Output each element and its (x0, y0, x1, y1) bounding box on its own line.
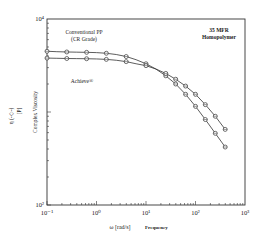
x-axis-tick-labels: 10⁻¹10⁰10¹10²10³ (41, 209, 250, 216)
chart-title-line1: 35 MFR (209, 27, 229, 33)
y-tick-label: 10⁴ (35, 15, 45, 22)
x-tick-label: 10⁰ (92, 209, 102, 216)
viscosity-chart: 10⁻¹10⁰10¹10²10³ 10²10⁴ Conventional PP … (0, 0, 260, 241)
chart-title-line2: Homopolymer (202, 34, 236, 40)
y-axis-label: Complex Viscosity (32, 91, 38, 133)
x-axis-label-suffix: Frequency (145, 225, 168, 230)
series-layer (45, 49, 227, 149)
x-tick-label: 10³ (241, 209, 250, 216)
x-axis-ticks (47, 201, 243, 205)
x-axis-label: ω [rad/s] (109, 224, 130, 231)
series-line (47, 51, 225, 147)
series-label-achieve: Achieve® (71, 78, 94, 84)
plot-frame (47, 19, 245, 205)
y-axis-symbol: η (-◇-) (8, 108, 15, 125)
y-tick-label: 10² (36, 201, 45, 208)
x-tick-label: 10² (191, 209, 200, 216)
series-label-conventional-line1: Conventional PP (65, 29, 102, 35)
series-label-conventional-line2: (CR Grade) (71, 36, 97, 43)
series-achieve (45, 56, 227, 131)
x-tick-label: 10¹ (142, 209, 151, 216)
y-axis-unit: [P] (16, 107, 22, 114)
x-tick-label: 10⁻¹ (41, 209, 54, 216)
series-line (47, 58, 225, 129)
